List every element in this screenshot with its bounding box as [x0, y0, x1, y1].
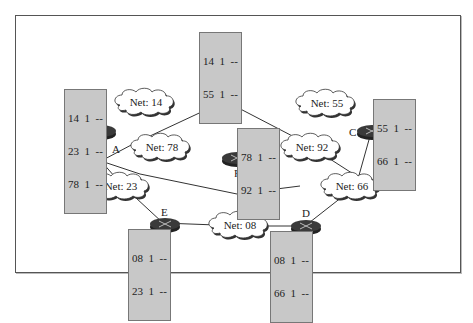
- table-row: 78 1 --: [68, 179, 103, 190]
- svg-text:Net: 23: Net: 23: [105, 180, 138, 192]
- table-row: 23 1 --: [68, 146, 103, 157]
- network-cloud-66: Net: 66: [321, 172, 381, 201]
- routing-table-f: 78 1 -- 92 1 --: [237, 128, 280, 220]
- svg-text:Net: 92: Net: 92: [296, 141, 329, 153]
- table-row: 14 1 --: [68, 113, 103, 124]
- router-label-a: A: [112, 143, 120, 155]
- svg-text:Net: 78: Net: 78: [146, 141, 179, 153]
- table-row: 66 1 --: [377, 156, 412, 167]
- table-row: 78 1 --: [241, 152, 276, 163]
- table-row: 55 1 --: [377, 123, 412, 134]
- network-cloud-92: Net: 92: [281, 133, 341, 162]
- svg-text:Net: 14: Net: 14: [130, 96, 163, 108]
- router-label-c: C: [349, 126, 356, 138]
- table-row: 92 1 --: [241, 185, 276, 196]
- routing-table-a: 14 1 -- 23 1 -- 78 1 --: [64, 89, 107, 214]
- router-label-d: D: [302, 207, 310, 219]
- svg-text:Net: 55: Net: 55: [311, 97, 344, 109]
- routing-table-b: 14 1 -- 55 1 --: [199, 32, 242, 124]
- table-row: 55 1 --: [203, 89, 238, 100]
- routing-table-d: 08 1 -- 66 1 --: [270, 231, 313, 323]
- network-cloud-78: Net: 78: [131, 133, 191, 162]
- network-cloud-14: Net: 14: [115, 88, 175, 117]
- table-row: 14 1 --: [203, 56, 238, 67]
- routing-table-c: 55 1 -- 66 1 --: [373, 99, 416, 191]
- table-row: 08 1 --: [132, 253, 167, 264]
- table-row: 66 1 --: [274, 288, 309, 299]
- table-row: 08 1 --: [274, 255, 309, 266]
- routing-table-e: 08 1 -- 23 1 --: [128, 229, 171, 321]
- svg-text:Net: 66: Net: 66: [336, 180, 369, 192]
- network-cloud-55: Net: 55: [296, 89, 356, 118]
- svg-text:Net: 08: Net: 08: [224, 219, 257, 231]
- table-row: 23 1 --: [132, 286, 167, 297]
- router-label-e: E: [161, 206, 168, 218]
